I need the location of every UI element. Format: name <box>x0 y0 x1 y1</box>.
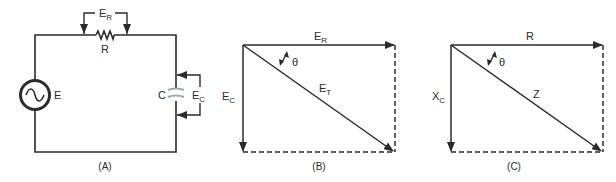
rc-circuit-figure: R E C ER EC (A) <box>0 0 616 182</box>
resistor-voltage-label: ER <box>99 7 112 22</box>
arrow-down-icon <box>123 24 131 34</box>
arrow-left-icon <box>177 111 187 119</box>
et-label: ET <box>319 82 331 97</box>
panel-a-circuit: R E C ER EC (A) <box>21 7 206 172</box>
capacitor-label: C <box>158 89 166 101</box>
source-label: E <box>54 89 61 101</box>
xc-label: XC <box>432 90 445 105</box>
panel-b-caption: (B) <box>312 161 325 172</box>
panel-a-caption: (A) <box>98 161 111 172</box>
arrow-down-icon <box>80 24 88 34</box>
theta-label: θ <box>292 56 298 68</box>
resistor-label: R <box>101 43 109 55</box>
panel-b-voltage-phasor: θ ER EC ET (B) <box>222 30 395 172</box>
er-label: ER <box>314 30 327 45</box>
z-vector-arrow <box>451 45 601 151</box>
panel-c-caption: (C) <box>507 161 521 172</box>
r-label: R <box>526 30 534 42</box>
ac-source-icon <box>21 81 50 110</box>
theta-label: θ <box>499 56 505 68</box>
capacitor-voltage-label: EC <box>192 89 205 104</box>
et-vector-arrow <box>243 45 393 151</box>
resistor-icon <box>96 31 114 39</box>
z-label: Z <box>533 88 540 100</box>
angle-arrow-icon <box>487 51 497 66</box>
arrow-left-icon <box>177 71 187 79</box>
panel-c-impedance-phasor: θ R XC Z (C) <box>432 30 603 172</box>
ec-label: EC <box>222 90 235 105</box>
angle-arrow-icon <box>279 51 289 66</box>
capacitor-icon <box>168 89 184 98</box>
